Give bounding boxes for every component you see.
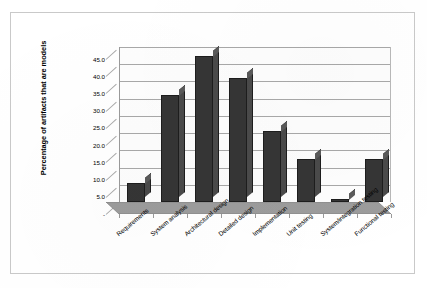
y-axis-tick-label: 25.0 xyxy=(83,124,105,131)
plot-area xyxy=(119,47,391,202)
depth-gridline xyxy=(106,101,117,111)
x-axis-category-label: Unit testing xyxy=(285,212,314,238)
y-axis-title: Percentage of artifacts that are models xyxy=(37,28,51,188)
y-axis-tick-label: 30.0 xyxy=(83,107,105,114)
bar-front-face xyxy=(263,131,281,202)
bar[interactable] xyxy=(195,56,213,202)
x-axis-category-label: Detailed design xyxy=(217,204,255,237)
depth-gridline xyxy=(106,188,117,198)
y-axis-tick-label: 35.0 xyxy=(83,90,105,97)
bar-front-face xyxy=(297,159,315,202)
y-axis-tick-label: 15.0 xyxy=(83,159,105,166)
bar-side-face xyxy=(213,46,219,197)
gridline xyxy=(120,81,390,82)
y-axis-tick-label: 20.0 xyxy=(83,142,105,149)
gridline xyxy=(120,64,390,65)
bar[interactable] xyxy=(161,95,179,202)
bar-side-face xyxy=(179,85,185,197)
x-axis-category-labels: RequirementsSystem analysisArchitectural… xyxy=(11,208,416,275)
y-axis-tick-label: 5.0 xyxy=(83,193,105,200)
bar-front-face xyxy=(229,78,247,202)
bar-chart[interactable]: Percentage of artifacts that are models … xyxy=(11,13,416,275)
bar-side-face xyxy=(247,68,253,197)
x-axis-category-label: Requirements xyxy=(115,207,150,238)
y-axis-tick-label: 45.0 xyxy=(83,56,105,63)
y-axis-tick-label: 10.0 xyxy=(83,176,105,183)
depth-gridline xyxy=(106,67,117,77)
plot-depth-panel xyxy=(106,47,119,202)
gridline xyxy=(120,47,390,48)
figure-frame: Percentage of artifacts that are models … xyxy=(10,12,415,274)
plot-face xyxy=(119,47,391,202)
y-axis-tick-label: 40.0 xyxy=(83,73,105,80)
bar-side-face xyxy=(281,121,287,197)
depth-gridline xyxy=(106,170,117,180)
bar[interactable] xyxy=(297,159,315,202)
bar-front-face xyxy=(127,183,145,202)
x-axis-category-label: Implementation xyxy=(251,204,288,237)
depth-gridline xyxy=(106,153,117,163)
bar[interactable] xyxy=(229,78,247,202)
bar-front-face xyxy=(161,95,179,202)
bar[interactable] xyxy=(263,131,281,202)
depth-gridline xyxy=(106,136,117,146)
depth-gridline xyxy=(106,84,117,94)
bar[interactable] xyxy=(127,183,145,202)
depth-gridline xyxy=(106,50,117,60)
depth-gridline xyxy=(106,119,117,129)
bar-front-face xyxy=(195,56,213,202)
